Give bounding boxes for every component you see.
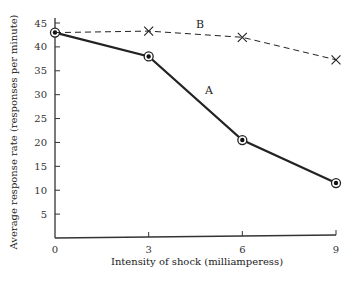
series-a-line: [55, 33, 336, 184]
x-tick-label: 6: [239, 244, 245, 255]
x-axis: 0369: [52, 230, 339, 255]
y-tick-label: 25: [34, 113, 47, 124]
marker-center-dot: [146, 54, 150, 58]
x-tick-label: 0: [52, 244, 58, 255]
x-axis-label: Intensity of shock (milliamperess): [111, 256, 283, 267]
y-tick-label: 15: [34, 161, 47, 172]
series-label-b: B: [196, 18, 204, 31]
marker-center-dot: [240, 138, 244, 142]
series-b-line: [55, 31, 336, 60]
x-tick-label: 9: [333, 244, 339, 255]
series-layer: [51, 27, 341, 188]
y-tick-label: 35: [34, 65, 47, 76]
line-chart: 51015202530354045 0369 Intensity of shoc…: [0, 0, 353, 283]
series-label-a: A: [204, 84, 214, 97]
y-tick-label: 45: [34, 18, 47, 29]
y-tick-label: 30: [34, 89, 47, 100]
x-axis-line: [55, 235, 336, 238]
x-marker-icon: [332, 55, 341, 64]
marker-center-dot: [334, 181, 338, 185]
y-axis: 51015202530354045: [34, 18, 60, 239]
x-tick-label: 3: [145, 244, 151, 255]
y-axis-label: Average response rate (responses per min…: [8, 14, 19, 250]
y-tick-label: 10: [34, 185, 47, 196]
y-tick-label: 40: [34, 41, 47, 52]
y-tick-label: 5: [41, 209, 47, 220]
y-tick-label: 20: [34, 137, 47, 148]
